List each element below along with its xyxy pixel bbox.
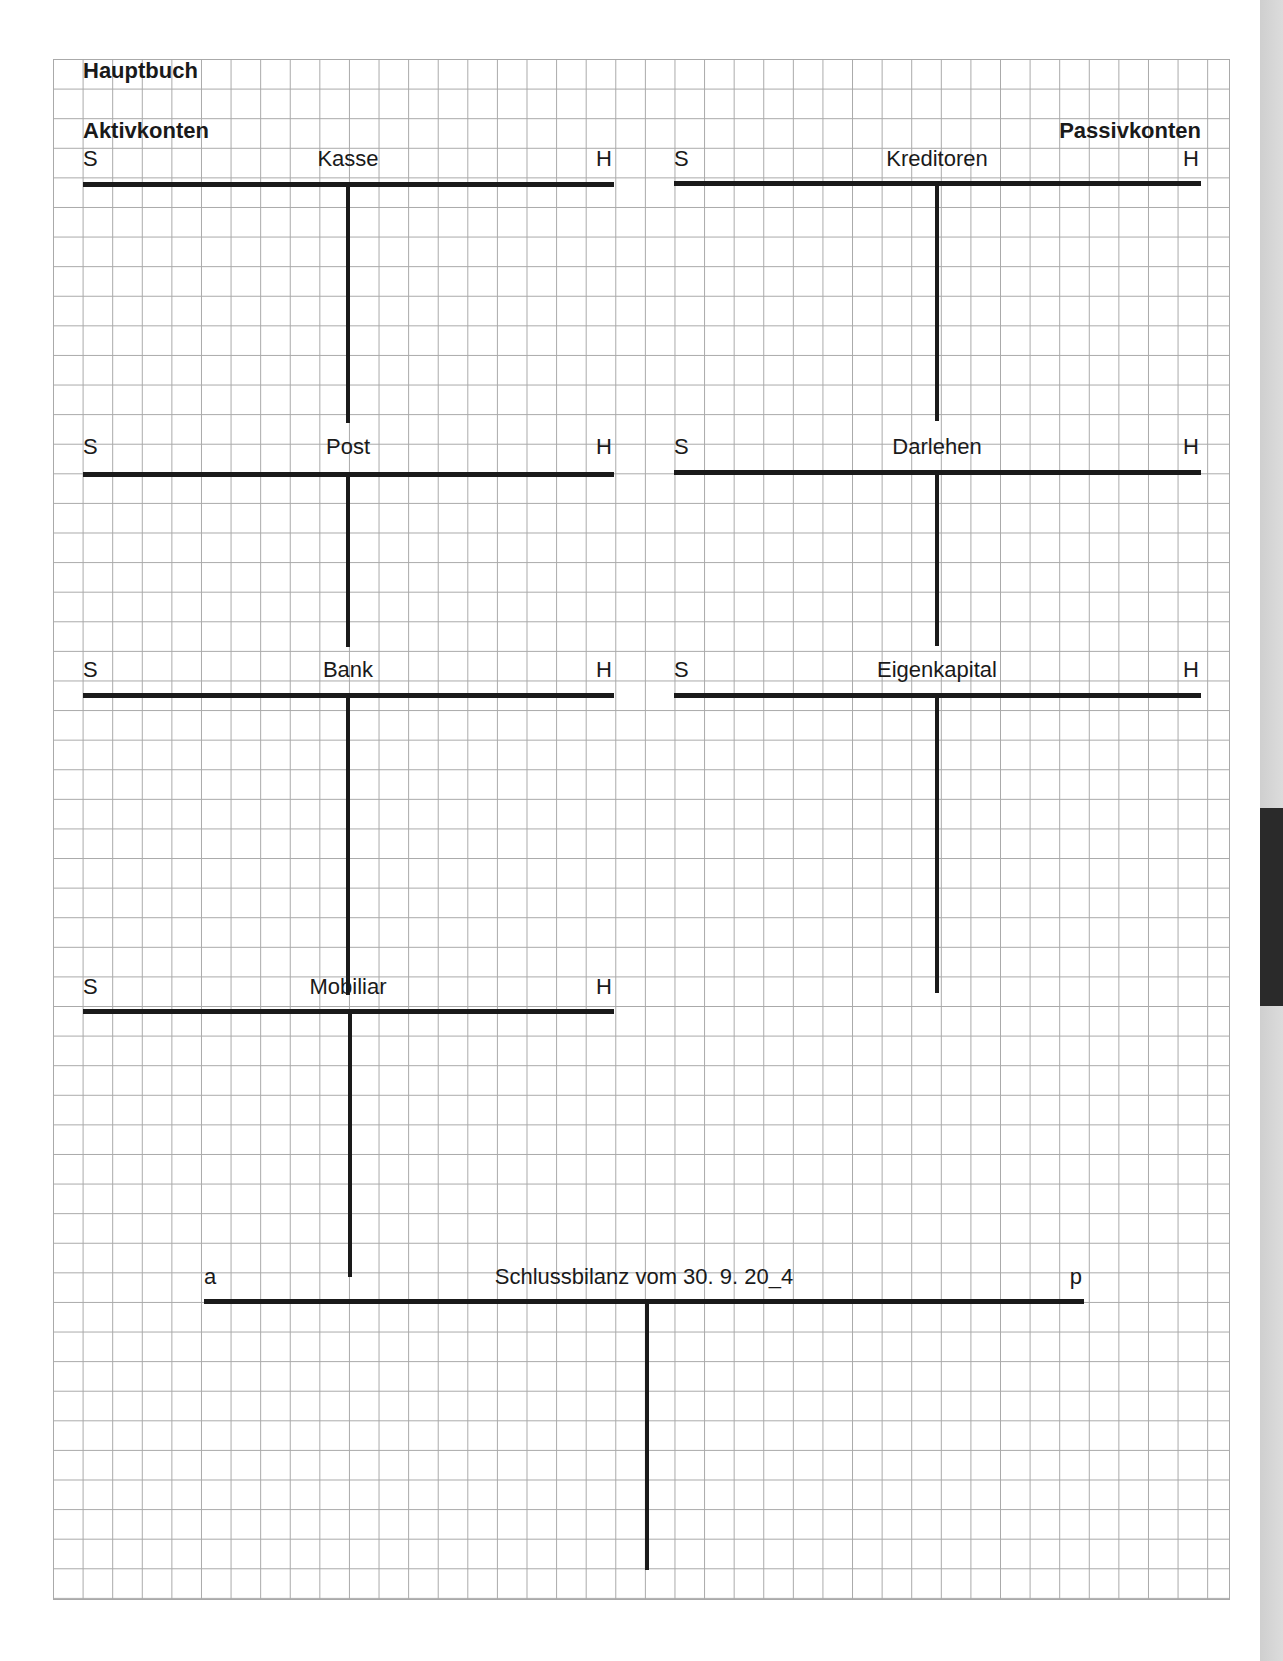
liabilities-label: p — [1070, 1266, 1082, 1288]
t-account-kasse: S Kasse H — [83, 146, 614, 426]
account-title: Post — [326, 436, 370, 458]
debit-label: S — [674, 148, 689, 170]
t-account-divider — [935, 181, 939, 421]
credit-label: H — [596, 148, 612, 170]
t-account-divider — [346, 693, 350, 995]
account-title: Eigenkapital — [877, 659, 997, 681]
t-account-divider — [935, 470, 939, 646]
debit-label: S — [674, 659, 689, 681]
t-account-schlussbilanz: a Schlussbilanz vom 30. 9. 20_4 p — [204, 1264, 1084, 1574]
t-account-divider — [346, 182, 350, 423]
credit-label: H — [1183, 659, 1199, 681]
account-title: Kasse — [317, 148, 378, 170]
debit-label: S — [674, 436, 689, 458]
t-account-mobiliar: S Mobiliar H — [83, 974, 614, 1279]
credit-label: H — [1183, 148, 1199, 170]
debit-label: S — [83, 436, 98, 458]
debit-label: S — [83, 659, 98, 681]
section-passivkonten: Passivkonten — [1059, 120, 1201, 142]
account-title: Mobiliar — [309, 976, 386, 998]
t-account-divider — [346, 472, 350, 647]
debit-label: S — [83, 148, 98, 170]
credit-label: H — [596, 976, 612, 998]
t-account-darlehen: S Darlehen H — [674, 434, 1201, 649]
assets-label: a — [204, 1266, 216, 1288]
t-account-post: S Post H — [83, 434, 614, 649]
account-title: Darlehen — [892, 436, 981, 458]
t-account-bank: S Bank H — [83, 657, 614, 997]
t-account-divider — [935, 693, 939, 993]
t-account-divider — [348, 1009, 352, 1277]
debit-label: S — [83, 976, 98, 998]
account-title: Bank — [323, 659, 373, 681]
t-account-divider — [645, 1299, 649, 1570]
section-aktivkonten: Aktivkonten — [83, 120, 209, 142]
balance-sheet-title: Schlussbilanz vom 30. 9. 20_4 — [495, 1266, 793, 1288]
t-account-kreditoren: S Kreditoren H — [674, 146, 1201, 426]
page-title: Hauptbuch — [83, 60, 198, 82]
credit-label: H — [596, 436, 612, 458]
t-account-header-line — [204, 1299, 1084, 1304]
credit-label: H — [596, 659, 612, 681]
account-title: Kreditoren — [886, 148, 988, 170]
t-account-eigenkapital: S Eigenkapital H — [674, 657, 1201, 997]
credit-label: H — [1183, 436, 1199, 458]
page-edge-tab-marker — [1260, 808, 1283, 1006]
